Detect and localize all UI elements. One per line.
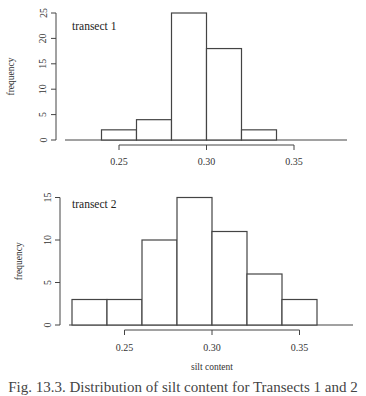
y-tick-label: 5 [42, 280, 53, 285]
y-tick-label: 15 [42, 193, 53, 203]
histogram-bar [72, 300, 107, 326]
y-tick-label: 15 [38, 59, 49, 69]
x-tick-label: 0.30 [203, 342, 221, 353]
y-tick-label: 0 [38, 138, 49, 143]
y-tick-label: 10 [38, 84, 49, 94]
x-tick-label: 0.35 [291, 342, 309, 353]
figure-caption: Fig. 13.3. Distribution of silt content … [0, 379, 366, 396]
histogram-bar [242, 130, 277, 140]
histogram-bar [282, 300, 317, 326]
panel-title: transect 2 [72, 198, 117, 210]
histogram-bar [142, 240, 177, 325]
x-axis-title: silt content [191, 362, 233, 372]
histogram-bar [207, 49, 242, 140]
x-tick-label: 0.35 [285, 156, 303, 167]
y-axis-title: frequency [6, 57, 16, 95]
y-tick-label: 10 [42, 235, 53, 245]
x-tick-label: 0.25 [116, 342, 134, 353]
histogram-bar [102, 130, 137, 140]
y-tick-label: 5 [38, 112, 49, 117]
y-tick-label: 0 [42, 323, 53, 328]
x-tick-label: 0.30 [198, 156, 216, 167]
panel-title: transect 1 [72, 20, 117, 32]
y-axis-title: frequency [14, 242, 24, 280]
x-tick-label: 0.25 [110, 156, 128, 167]
histogram-bar [247, 274, 282, 325]
histogram-bar [137, 120, 172, 140]
histogram-bar [172, 13, 207, 140]
y-tick-label: 25 [38, 8, 49, 18]
histogram-bar [177, 198, 212, 326]
histogram-bar [107, 300, 142, 326]
y-tick-label: 20 [38, 33, 49, 43]
histogram-bar [212, 232, 247, 326]
